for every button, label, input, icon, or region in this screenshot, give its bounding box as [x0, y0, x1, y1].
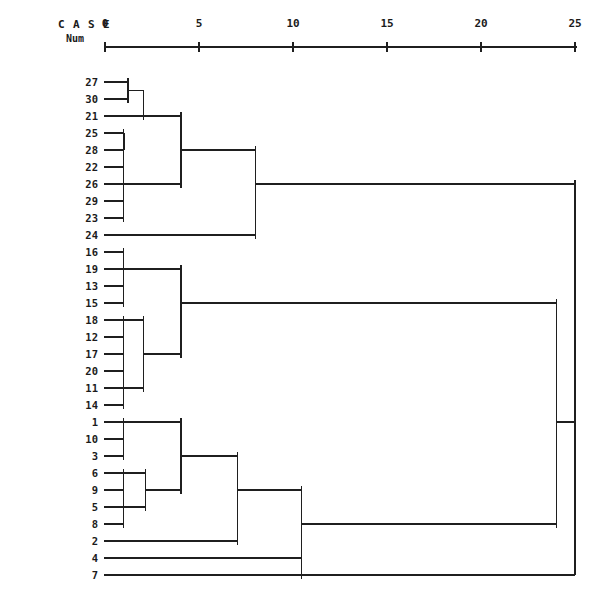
dendrogram-tree — [104, 78, 575, 579]
dendrogram-page: C A S E Num 0 5 10 15 20 25 273021252822… — [0, 0, 608, 614]
dendrogram-canvas — [0, 0, 608, 614]
axis-group — [105, 42, 577, 52]
